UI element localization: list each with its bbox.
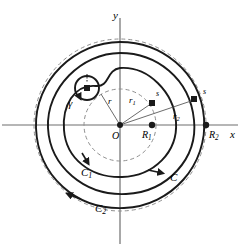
point-R2-label: R2 bbox=[209, 130, 219, 142]
origin-label: O bbox=[112, 131, 119, 141]
curve-gamma-group bbox=[75, 74, 99, 100]
radius-r2-subscript: 2 bbox=[177, 115, 180, 122]
point-R2-subscript: 2 bbox=[215, 134, 219, 142]
math-figure-annulus-contours: y x O R1 R2 s s r r1 r2 C C1 C2 γ bbox=[0, 0, 248, 252]
point-R1-label: R1 bbox=[142, 130, 152, 142]
point-s-outer-label: s bbox=[203, 88, 206, 96]
point-R1-subscript: 1 bbox=[148, 134, 152, 142]
radius-label-r2: r2 bbox=[173, 112, 180, 122]
y-axis-label: y bbox=[113, 10, 118, 21]
radius-label-r1: r1 bbox=[129, 96, 136, 106]
axis-group bbox=[2, 18, 238, 244]
radius-label-r: r bbox=[108, 97, 112, 106]
radial-lines-group bbox=[101, 94, 194, 125]
curve-label-C1: C1 bbox=[81, 167, 92, 180]
point-origin-marker bbox=[117, 122, 123, 128]
curve-C1-subscript: 1 bbox=[88, 171, 92, 180]
curve-label-C2: C2 bbox=[95, 203, 106, 216]
curve-C2-subscript: 2 bbox=[102, 207, 106, 216]
point-s-inner-marker bbox=[149, 100, 155, 106]
curve-label-gamma: γ bbox=[68, 98, 72, 109]
figure-canvas bbox=[0, 0, 248, 252]
curve-C1-direction-arrow bbox=[82, 153, 88, 163]
point-R2-marker bbox=[203, 122, 209, 128]
curve-label-C: C bbox=[170, 172, 177, 183]
point-R1-marker bbox=[149, 122, 155, 128]
point-s-outer-marker bbox=[191, 96, 197, 102]
point-s-inner-label: s bbox=[156, 90, 159, 98]
gamma-center-marker bbox=[84, 85, 90, 91]
x-axis-label: x bbox=[230, 129, 235, 140]
radius-line-r1 bbox=[120, 103, 152, 125]
radius-r1-subscript: 1 bbox=[133, 99, 136, 106]
